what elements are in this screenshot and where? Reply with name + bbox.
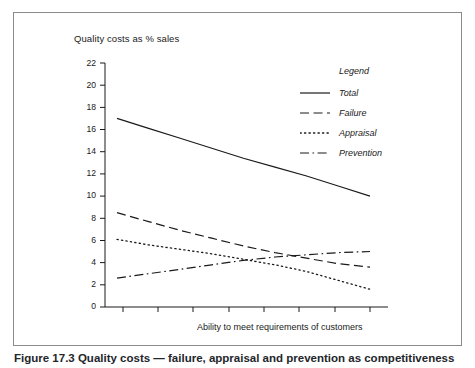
y-tick-0: 0 bbox=[78, 301, 96, 311]
legend-swatch-dotted-icon bbox=[300, 128, 330, 138]
legend-item-prevention: Prevention bbox=[300, 143, 412, 163]
x-axis-label: Ability to meet requirements of customer… bbox=[197, 322, 363, 332]
legend-swatch-solid-icon bbox=[300, 88, 330, 98]
y-tick-4: 4 bbox=[78, 257, 96, 267]
y-tick-14: 14 bbox=[78, 146, 96, 156]
legend-title: Legend bbox=[308, 66, 400, 76]
series-line-failure bbox=[117, 213, 370, 267]
x-axis-ticks bbox=[123, 307, 370, 312]
y-tick-6: 6 bbox=[78, 235, 96, 245]
y-tick-12: 12 bbox=[78, 168, 96, 178]
legend: Legend Total Failure Appraisal Preventio… bbox=[300, 66, 412, 163]
line-chart-plot bbox=[0, 0, 475, 368]
legend-label-failure: Failure bbox=[339, 108, 367, 118]
legend-item-total: Total bbox=[300, 83, 412, 103]
y-tick-2: 2 bbox=[78, 279, 96, 289]
series-line-appraisal bbox=[117, 239, 370, 289]
y-tick-16: 16 bbox=[78, 124, 96, 134]
y-tick-10: 10 bbox=[78, 190, 96, 200]
series-line-prevention bbox=[117, 252, 370, 279]
legend-label-appraisal: Appraisal bbox=[339, 128, 377, 138]
y-tick-8: 8 bbox=[78, 213, 96, 223]
y-axis-ticks bbox=[100, 63, 105, 307]
legend-item-appraisal: Appraisal bbox=[300, 123, 412, 143]
y-tick-18: 18 bbox=[78, 102, 96, 112]
y-tick-20: 20 bbox=[78, 80, 96, 90]
legend-item-failure: Failure bbox=[300, 103, 412, 123]
legend-swatch-dashed-icon bbox=[300, 108, 330, 118]
y-tick-22: 22 bbox=[78, 58, 96, 68]
legend-label-prevention: Prevention bbox=[339, 148, 382, 158]
legend-label-total: Total bbox=[339, 88, 358, 98]
legend-swatch-dashdot-icon bbox=[300, 148, 330, 158]
figure-caption: Figure 17.3 Quality costs — failure, app… bbox=[14, 352, 464, 364]
